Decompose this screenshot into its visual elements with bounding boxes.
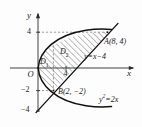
tick-label-x-4: 4 [64, 70, 68, 78]
parabola-equation-label: y2=2x [99, 94, 118, 104]
parabola-eq-tail: =2x [105, 95, 118, 104]
tick-label-y-4: 4 [27, 28, 31, 36]
tick-label-y-neg2: −2 [21, 86, 30, 94]
math-figure: y x O 4 −2 −4 4 D1 D2 A(8, 4) B(2, −2) y… [0, 0, 142, 127]
tick-label-y-neg4: −4 [21, 106, 30, 114]
origin-label: O [28, 70, 34, 79]
x-axis-label: x [127, 69, 131, 78]
region-label-d2: D2 [60, 48, 69, 58]
y-axis-arrow [36, 13, 40, 19]
point-label-b: B(2, −2) [58, 88, 86, 96]
region-d2-sub: 2 [66, 52, 69, 58]
y-axis-label: y [27, 11, 31, 20]
point-label-a: A(8, 4) [104, 38, 126, 46]
region-label-d1: D1 [40, 58, 49, 68]
line-equation-label: y=x−4 [84, 53, 106, 61]
region-d1-sub: 1 [46, 61, 49, 67]
region-d2-hatch [53, 32, 109, 91]
